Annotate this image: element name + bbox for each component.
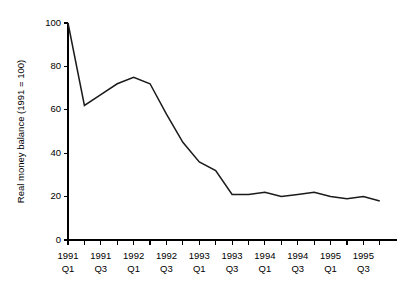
x-axis-tick-label-quarter: Q3 bbox=[160, 263, 173, 274]
x-axis-tick-label-quarter: Q3 bbox=[226, 263, 239, 274]
x-axis-tick-label-year: 1995 bbox=[353, 250, 374, 261]
x-axis-tick-label-year: 1993 bbox=[189, 250, 210, 261]
y-axis-tick-label: 0 bbox=[56, 234, 61, 245]
chart-figure: 020406080100Real money balance (1991 = 1… bbox=[0, 0, 419, 294]
y-axis-tick-label: 40 bbox=[50, 147, 61, 158]
x-axis-tick-label-year: 1995 bbox=[320, 250, 341, 261]
x-axis-tick-label-year: 1991 bbox=[90, 250, 111, 261]
x-axis-tick-label-year: 1994 bbox=[254, 250, 275, 261]
y-axis-tick-label: 80 bbox=[50, 60, 61, 71]
x-axis-tick-label-quarter: Q1 bbox=[259, 263, 272, 274]
x-axis-tick-label-quarter: Q1 bbox=[127, 263, 140, 274]
x-axis-tick-label-year: 1994 bbox=[287, 250, 308, 261]
data-series-line bbox=[68, 23, 380, 201]
chart-axes bbox=[68, 23, 397, 240]
x-axis-tick-label-quarter: Q3 bbox=[94, 263, 107, 274]
x-axis-tick-label-year: 1993 bbox=[222, 250, 243, 261]
y-axis-tick-label: 20 bbox=[50, 190, 61, 201]
x-axis-tick-label-quarter: Q1 bbox=[62, 263, 75, 274]
x-axis-tick-label-year: 1992 bbox=[123, 250, 144, 261]
y-axis-tick-label: 100 bbox=[45, 17, 61, 28]
x-axis-tick-label-quarter: Q3 bbox=[291, 263, 304, 274]
x-axis-tick-label-quarter: Q3 bbox=[357, 263, 370, 274]
line-chart: 020406080100Real money balance (1991 = 1… bbox=[0, 0, 419, 294]
x-axis-tick-label-quarter: Q1 bbox=[193, 263, 206, 274]
y-axis-tick-label: 60 bbox=[50, 103, 61, 114]
x-axis-tick-label-year: 1991 bbox=[57, 250, 78, 261]
y-axis-title: Real money balance (1991 = 100) bbox=[15, 60, 26, 203]
x-axis-tick-label-quarter: Q1 bbox=[324, 263, 337, 274]
x-axis-tick-label-year: 1992 bbox=[156, 250, 177, 261]
